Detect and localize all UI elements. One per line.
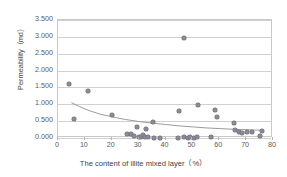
x-axis-tick-label: 50	[181, 140, 201, 149]
data-point	[176, 136, 180, 140]
trendline	[58, 20, 273, 138]
x-axis-tick-label: 20	[101, 140, 121, 149]
x-axis-tick-label: 70	[235, 140, 255, 149]
y-axis-tick-label: 1.000	[35, 99, 53, 107]
trendline-path	[71, 103, 262, 131]
y-axis-tick-label: 3.000	[35, 32, 53, 40]
y-axis-tick-label: 2.000	[35, 66, 53, 74]
data-point	[132, 134, 136, 138]
data-point	[196, 103, 200, 107]
data-point	[215, 115, 219, 119]
data-point	[182, 36, 186, 40]
permeability-scatter-chart: 0.0000.5001.0001.5002.0002.5003.0003.500…	[0, 0, 287, 177]
y-axis-tick-label: 3.500	[35, 15, 53, 23]
data-point	[86, 89, 90, 93]
data-point	[67, 82, 71, 86]
plot-area	[57, 19, 272, 137]
data-point	[144, 127, 148, 131]
x-axis-title: The content of illite mixed layer（%）	[0, 157, 287, 168]
data-point	[250, 130, 254, 134]
y-axis-tick-label: 1.500	[35, 82, 53, 90]
data-point	[232, 121, 236, 125]
data-point	[258, 134, 262, 138]
y-axis-tick-labels: 0.0000.5001.0001.5002.0002.5003.0003.500	[0, 0, 53, 177]
x-axis-tick-label: 0	[47, 140, 67, 149]
x-axis-tick-label: 80	[262, 140, 282, 149]
y-axis-tick-label: 2.500	[35, 49, 53, 57]
x-axis-tick-label: 30	[128, 140, 148, 149]
x-axis-tick-label: 40	[155, 140, 175, 149]
y-axis-tick-label: 0.500	[35, 116, 53, 124]
x-axis-tick-label: 60	[208, 140, 228, 149]
y-axis-title: Permeability（md）	[14, 0, 25, 118]
x-axis-tick-label: 10	[74, 140, 94, 149]
data-point	[151, 120, 155, 124]
